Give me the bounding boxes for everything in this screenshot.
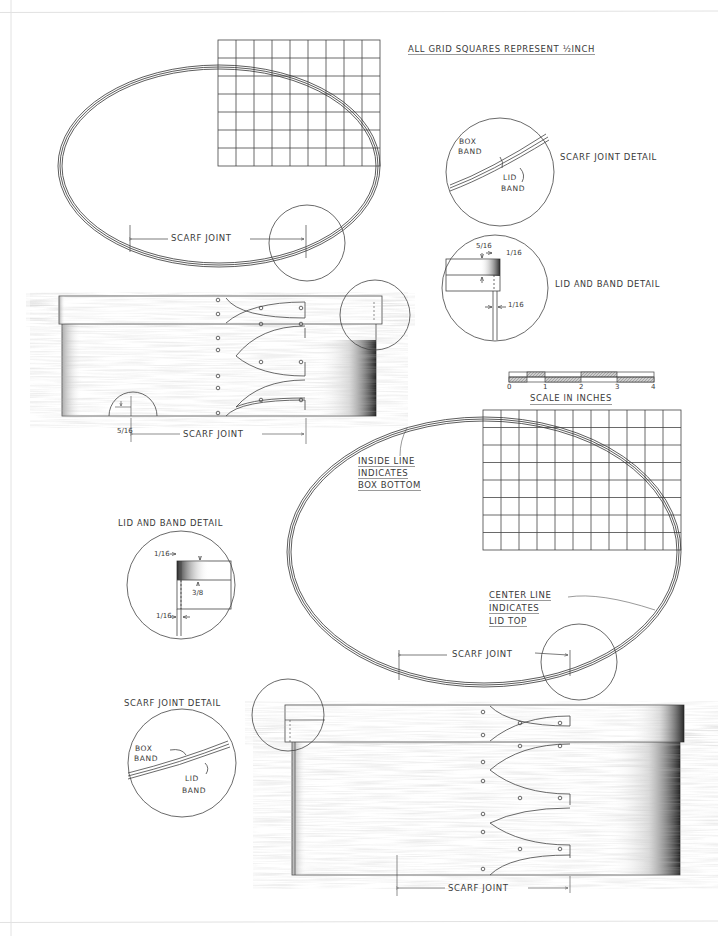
top-box-band-label-2: BAND (458, 147, 482, 156)
title-part-lid: LID (555, 279, 571, 289)
bottom-scarf-detail-drawing (128, 709, 236, 817)
center-line-note-2: INDICATES (489, 603, 539, 614)
scale-title-in: in (564, 394, 574, 403)
top-scarf-detail-drawing (446, 118, 554, 226)
bottom-box-band-label-1: BOX (135, 744, 152, 753)
title-part-band-detail: BAND DETAIL (597, 279, 660, 289)
scale-title-inches: INCHES (576, 393, 612, 403)
bottom-box-band-label-2: BAND (134, 754, 158, 763)
bottom-lid-band-label-2: BAND (182, 786, 206, 795)
bottom-lid-dim-3-8: 3/8 (192, 590, 203, 597)
top-lid-band-label-2: BAND (501, 184, 525, 193)
bottom-lid-detail-drawing (127, 531, 235, 639)
bottom-box-side (252, 679, 684, 896)
bottom-lid-dim-1-16-top: 1/16 (154, 551, 170, 558)
scale-title-scale: SCALE (530, 393, 560, 403)
bottom-oval-scarf-label: SCARF JOINT (452, 649, 513, 659)
bottom-oval-leaders (400, 428, 655, 610)
scale-tick-4: 4 (651, 384, 655, 391)
bottom-lid-band-label-1: LID (185, 774, 199, 783)
bottom-scarf-detail-title: SCARF JOINT DETAIL (124, 698, 221, 708)
top-oval-scarf-label: SCARF JOINT (171, 233, 232, 243)
top-box-band-label-1: BOX (459, 137, 476, 146)
top-box-dim-5-16: 5/16 (117, 428, 133, 435)
scale-tick-2: 2 (579, 384, 583, 391)
top-box-scarf-label: SCARF JOINT (183, 429, 244, 439)
scale-title: SCALE in INCHES (530, 393, 612, 405)
inside-line-note-1: INSIDE LINE (358, 456, 415, 467)
top-lid-detail-drawing (442, 235, 548, 341)
top-box-side (59, 280, 410, 444)
top-scarf-detail-title: SCARF JOINT DETAIL (560, 152, 657, 162)
bottom-oval-detail-callout (541, 624, 617, 700)
title-part-and: and (574, 280, 593, 289)
top-oval-grid (218, 40, 380, 166)
grid-note-unit: INCH (571, 44, 595, 54)
inside-line-note-2: INDICATES (358, 468, 408, 479)
bottom-box-scarf-label: SCARF JOINT (448, 883, 509, 893)
center-line-note-3: LID TOP (489, 616, 527, 627)
scale-tick-0: 0 (507, 384, 511, 391)
top-lid-band-label-1: LID (503, 173, 517, 182)
scale-tick-1: 1 (543, 384, 547, 391)
grid-scale-note: ALL GRID SQUARES REPRESENT ½INCH (408, 44, 595, 55)
grid-note-text: ALL GRID SQUARES REPRESENT (408, 44, 559, 54)
center-line-note-1: CENTER LINE (489, 590, 551, 601)
inside-line-note-3: BOX BOTTOM (358, 480, 421, 491)
scale-tick-3: 3 (615, 384, 619, 391)
bottom-oval-grid (483, 410, 681, 550)
bottom-lid-detail-title: LID and BAND DETAIL (118, 518, 223, 529)
top-lid-dim-1-16-top: 1/16 (506, 250, 522, 257)
top-lid-detail-title: LID and BAND DETAIL (555, 279, 660, 290)
plan-sheet: ALL GRID SQUARES REPRESENT ½INCH SCARF J… (0, 0, 718, 936)
top-lid-dim-1-16-bottom: 1/16 (508, 302, 524, 309)
top-oval-detail-callout (269, 205, 345, 281)
title-part-and: and (137, 519, 156, 528)
scale-bar (509, 372, 654, 382)
title-part-lid: LID (118, 518, 134, 528)
bottom-oval-outline (287, 417, 681, 687)
bottom-lid-dim-1-16-bottom: 1/16 (156, 613, 172, 620)
title-part-band-detail: BAND DETAIL (160, 518, 223, 528)
top-lid-dim-5-16: 5/16 (476, 243, 492, 250)
